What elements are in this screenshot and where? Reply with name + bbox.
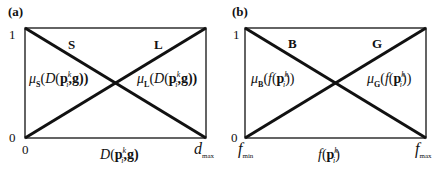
panel-b-ytick-1: 1	[233, 28, 240, 41]
panel-b-ytick-0: 0	[231, 131, 238, 144]
panel-b-xlabel: f(pki)	[318, 148, 340, 162]
D-symbol: D	[45, 71, 55, 86]
xlabel-D: D	[100, 147, 110, 162]
panel-b-set-g-label: G	[372, 37, 382, 50]
xlabel-rest: )	[335, 147, 340, 162]
D-symbol: D	[154, 71, 164, 86]
panel-b-xtick-fmin: fmin	[238, 141, 253, 157]
panel-a-mu-s: μS(D(pki,g))	[29, 72, 88, 86]
panel-a-ytick-1: 1	[9, 28, 16, 41]
mu-symbol: μ	[251, 71, 258, 86]
panel-a-set-s-label: S	[68, 38, 75, 51]
panel-b-xtick-fmax: fmax	[415, 141, 432, 157]
panel-b-tag: (b)	[232, 5, 248, 18]
panel-b-mu-b: μB(f(pki))	[251, 72, 295, 86]
fmin-sub: min	[242, 152, 253, 160]
rest: ))	[402, 71, 411, 86]
rest: ))	[285, 71, 294, 86]
mu-symbol: μ	[137, 71, 144, 86]
panel-a-xtick-dmax: dmax	[194, 141, 214, 157]
panel-a-ytick-0: 0	[9, 131, 16, 144]
mu-symbol: μ	[29, 71, 36, 86]
panel-b-mu-g: μG(f(pki))	[367, 72, 411, 86]
panel-a-set-l-label: L	[154, 38, 163, 51]
mu-symbol: μ	[367, 71, 374, 86]
rest: ,g))	[177, 71, 197, 86]
dmax-d: d	[194, 140, 202, 157]
fmax-sub: max	[419, 152, 431, 160]
panel-a-xlabel: D(pki,g)	[100, 148, 139, 162]
panel-a-mu-l: μL(D(pki,g))	[137, 72, 197, 86]
dmax-sub: max	[202, 152, 214, 160]
xlabel-rest: ,g)	[123, 147, 138, 162]
rest: ,g))	[69, 71, 89, 86]
panel-a-xtick-0: 0	[22, 143, 29, 156]
panel-b-set-b-label: B	[288, 37, 297, 50]
panel-a-tag: (a)	[8, 5, 23, 18]
